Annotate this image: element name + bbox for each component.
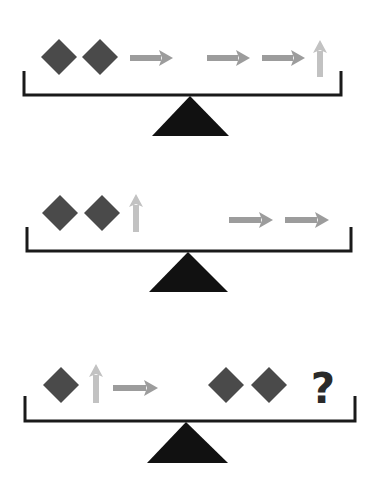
up-arrow-icon	[89, 364, 103, 403]
balance-scale-1	[24, 39, 341, 136]
right-arrow-icon	[262, 50, 305, 66]
right-pan-items	[229, 212, 329, 228]
fulcrum-triangle	[149, 252, 228, 292]
diamond-weight	[41, 39, 77, 75]
left-pan-items	[41, 39, 173, 75]
balance-scale-2	[27, 194, 351, 292]
right-arrow-icon	[285, 212, 329, 228]
fulcrum-triangle	[152, 96, 229, 136]
diamond-weight	[84, 195, 120, 231]
diamond-weight	[208, 367, 244, 403]
right-pan-items	[207, 40, 327, 77]
diamond-weight	[251, 367, 287, 403]
question-mark: ?	[311, 364, 335, 413]
diamond-weight	[43, 367, 79, 403]
diamond-weight	[42, 195, 78, 231]
right-arrow-icon	[229, 212, 273, 228]
right-pan-items: ?	[208, 364, 335, 413]
up-arrow-icon	[313, 40, 327, 77]
scale-beam	[27, 227, 351, 251]
diamond-weight	[82, 39, 118, 75]
right-arrow-icon	[207, 50, 250, 66]
left-pan-items	[42, 194, 143, 232]
right-arrow-icon	[113, 380, 158, 396]
right-arrow-icon	[130, 50, 173, 66]
scale-beam	[24, 71, 341, 95]
fulcrum-triangle	[147, 422, 228, 463]
up-arrow-icon	[129, 194, 143, 232]
balance-scale-3: ?	[25, 364, 355, 463]
left-pan-items	[43, 364, 158, 403]
balance-puzzle-canvas: ?	[0, 0, 375, 481]
scale-beam	[25, 396, 355, 421]
